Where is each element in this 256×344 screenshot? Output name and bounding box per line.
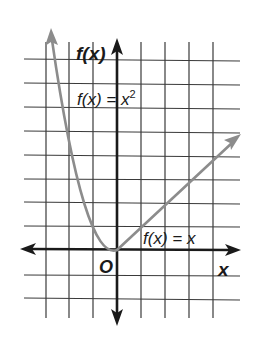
parabola-label: f(x) = x2	[77, 89, 136, 108]
parabola-curve	[52, 40, 117, 251]
parabola-label-text: f(x) = x	[77, 90, 129, 109]
identity-line-label: f(x) = x	[143, 230, 195, 247]
axes	[20, 38, 241, 326]
y-axis-label: f(x)	[76, 44, 106, 63]
coordinate-graph	[0, 0, 256, 344]
grid	[24, 42, 240, 318]
parabola-label-exponent: 2	[129, 88, 135, 100]
origin-label: O	[99, 258, 113, 276]
x-axis	[30, 249, 232, 250]
curves	[45, 28, 241, 251]
x-axis-label: x	[218, 260, 229, 279]
